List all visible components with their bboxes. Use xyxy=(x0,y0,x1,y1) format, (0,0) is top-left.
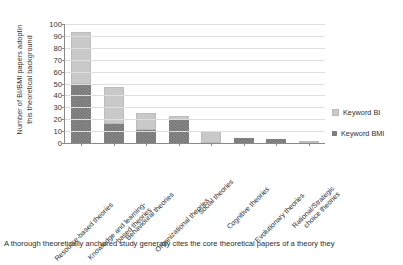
y-axis-tick-label: 70 xyxy=(54,55,62,64)
y-axis-tick-mark xyxy=(62,48,65,49)
x-axis-tick-label: Knowledge and learning-based theories xyxy=(86,200,153,265)
y-axis-tick-label: 40 xyxy=(54,91,62,100)
legend-swatch-icon xyxy=(332,131,337,136)
y-axis-tick-label: 50 xyxy=(54,79,62,88)
y-axis-tick-label: 30 xyxy=(54,103,62,112)
x-axis-tick-label: Cognitive theories xyxy=(225,185,271,231)
gridline xyxy=(65,131,325,132)
y-axis-tick-mark xyxy=(62,84,65,85)
stacked-bar[interactable] xyxy=(71,32,91,143)
bar-segment-keyword-bi[interactable] xyxy=(71,32,91,83)
x-axis-labels: Resource-based theoriesKnowledge and lea… xyxy=(64,145,324,230)
legend-swatch-icon xyxy=(332,109,339,116)
bar-segment-keyword-bmi[interactable] xyxy=(104,124,124,143)
gridline xyxy=(65,107,325,108)
bar-segment-keyword-bmi[interactable] xyxy=(71,84,91,144)
gridline xyxy=(65,24,325,25)
bar-segment-keyword-bi[interactable] xyxy=(136,113,156,130)
y-axis-tick-label: 80 xyxy=(54,43,62,52)
legend-label: Keyword BMI xyxy=(341,129,384,138)
y-axis-tick-mark xyxy=(62,36,65,37)
gridline xyxy=(65,60,325,61)
stacked-bar[interactable] xyxy=(136,113,156,143)
y-axis-tick-mark xyxy=(62,131,65,132)
gridline xyxy=(65,36,325,37)
y-axis-tick-label: 90 xyxy=(54,31,62,40)
legend-item[interactable]: Keyword BMI xyxy=(332,129,384,138)
y-axis-title: Number of BI/BMI papers adoptin this the… xyxy=(15,0,34,160)
y-axis-tick-mark xyxy=(62,60,65,61)
y-axis-tick-label: 60 xyxy=(54,67,62,76)
y-axis-tick-mark xyxy=(62,119,65,120)
y-axis-tick-mark xyxy=(62,24,65,25)
chart-legend: Keyword BIKeyword BMI xyxy=(332,108,384,150)
stacked-bar[interactable] xyxy=(201,131,221,143)
y-axis-tick-label: 100 xyxy=(49,20,62,29)
gridline xyxy=(65,48,325,49)
y-axis-tick-mark xyxy=(62,107,65,108)
y-axis-title-line-2: this theoretical background xyxy=(24,0,34,160)
legend-item[interactable]: Keyword BI xyxy=(332,108,384,117)
chart-figure: Number of BI/BMI papers adoptin this the… xyxy=(0,0,403,232)
plot-area: 0102030405060708090100 xyxy=(64,24,325,144)
gridline xyxy=(65,119,325,120)
bar-segment-keyword-bi[interactable] xyxy=(201,131,221,143)
legend-label: Keyword BI xyxy=(343,108,380,117)
gridline xyxy=(65,84,325,85)
gridline xyxy=(65,72,325,73)
x-axis-tick-label-line: Cognitive theories xyxy=(225,185,271,231)
y-axis-tick-mark xyxy=(62,95,65,96)
y-axis-tick-label: 20 xyxy=(54,115,62,124)
figure-caption: A thorough theoretically anchored study … xyxy=(4,239,400,249)
gridline xyxy=(65,95,325,96)
y-axis-tick-mark xyxy=(62,143,65,144)
y-axis-title-line-1: Number of BI/BMI papers adoptin xyxy=(15,0,25,160)
y-axis-tick-mark xyxy=(62,72,65,73)
y-axis-tick-label: 10 xyxy=(54,127,62,136)
